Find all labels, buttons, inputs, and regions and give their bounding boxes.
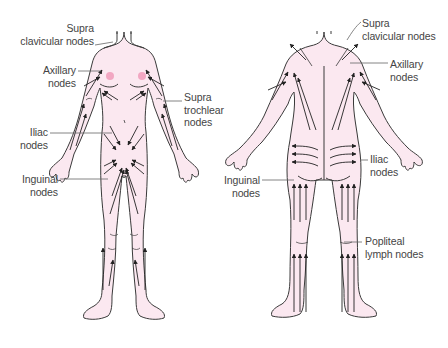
label-front-axillary-nodes: Axillary nodes <box>20 64 76 89</box>
label-back-iliac-nodes: Iliac nodes <box>370 153 398 178</box>
label-front-iliac-nodes: Iliac nodes <box>10 126 48 151</box>
right-nipple-marker <box>138 72 146 80</box>
label-back-supraclavicular-nodes: Supra clavicular nodes <box>362 17 436 42</box>
label-front-supratrochlear-nodes: Supra trochlear nodes <box>184 91 224 129</box>
left-nipple-marker <box>106 72 114 80</box>
label-back-axillary-nodes: Axillary nodes <box>390 58 423 83</box>
label-front-inguinal-nodes: Inguinal nodes <box>6 173 58 198</box>
lymph-drainage-diagram: Supra clavicular nodes Axillary nodes Su… <box>0 0 448 348</box>
label-back-inguinal-nodes: Inguinal nodes <box>208 174 260 199</box>
label-back-popliteal-lymph-nodes: Popliteal lymph nodes <box>365 235 423 260</box>
label-front-supraclavicular-nodes: Supra clavicular nodes <box>4 22 94 47</box>
